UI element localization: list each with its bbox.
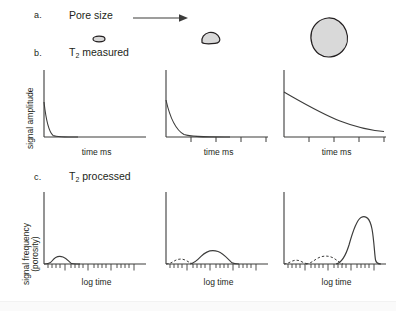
t2-measured-rest: measured	[79, 46, 129, 58]
pore-medium	[196, 28, 224, 48]
t2-processed-title: T2 processed	[69, 170, 131, 182]
panel-letter-b: b.	[34, 48, 42, 58]
t2-processed-rest: processed	[79, 170, 130, 182]
axis-label-time-ms-3: time ms	[284, 147, 389, 157]
pore-size-title: Pore size	[69, 9, 113, 21]
t2-measured-title: T2 measured	[69, 46, 129, 58]
chart-b-medium-pore	[160, 68, 270, 144]
axis-label-time-ms-2: time ms	[166, 147, 271, 157]
axis-label-time-ms-1: time ms	[44, 147, 149, 157]
panel-letter-c: c.	[34, 172, 41, 182]
axis-label-log-time-2: log time	[166, 277, 271, 287]
pore-large	[306, 15, 354, 63]
chart-c-medium-pore	[160, 190, 270, 274]
chart-b-large-pore	[278, 68, 388, 144]
axis-label-signal-amplitude: signal amplitude	[26, 88, 35, 149]
panel-letter-a: a.	[34, 10, 42, 20]
chart-c-large-pore	[278, 190, 388, 274]
chart-b-small-pore	[38, 68, 148, 144]
pore-small	[90, 33, 108, 45]
axis-label-log-time-1: log time	[44, 277, 149, 287]
chart-c-small-pore	[38, 190, 148, 274]
t2-measured-subscript: 2	[75, 52, 79, 59]
t2-processed-subscript: 2	[75, 176, 79, 183]
right-arrow-icon	[133, 11, 189, 25]
figure-root: a. Pore size b. T2 measured signal ampli…	[0, 0, 396, 311]
axis-label-log-time-3: log time	[284, 277, 389, 287]
bottom-band	[0, 301, 396, 311]
